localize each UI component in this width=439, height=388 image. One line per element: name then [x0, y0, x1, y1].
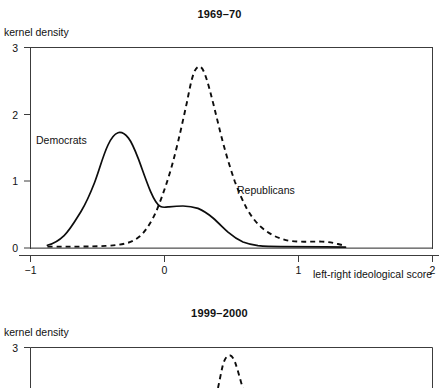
y-axis-ticks: 3 2 1 0 [12, 42, 30, 255]
x-tick-1: 1 [296, 264, 302, 276]
plot-area-1999-2000: 3 [0, 295, 439, 388]
curve-democrats [47, 132, 345, 247]
x-tick-0: 0 [162, 264, 168, 276]
y-axis-ticks-2: 3 [12, 342, 30, 354]
panel-1969-70: 1969–70 kernel density left-right ideolo… [0, 0, 439, 295]
curve-republicans-1999 [218, 355, 243, 388]
plot-frame [31, 48, 433, 249]
x-axis-ticks: −1 0 1 2 [19, 256, 439, 277]
label-democrats: Democrats [36, 134, 87, 146]
y-tick-2: 2 [12, 109, 18, 121]
y-tick-3-panel2: 3 [12, 342, 18, 354]
curve-republicans [47, 66, 345, 246]
label-republicans: Republicans [237, 184, 295, 196]
x-tick-2: 2 [430, 264, 436, 276]
plot-area-1969-70: 3 2 1 0 −1 0 1 2 Democrats Republicans [0, 0, 439, 295]
panel-1999-2000: 1999–2000 kernel density 3 [0, 295, 439, 388]
y-tick-0: 0 [12, 242, 18, 254]
plot-frame-2 [31, 348, 433, 388]
y-tick-3: 3 [12, 42, 18, 54]
x-tick-minus-1: −1 [25, 264, 37, 276]
y-tick-1: 1 [12, 175, 18, 187]
